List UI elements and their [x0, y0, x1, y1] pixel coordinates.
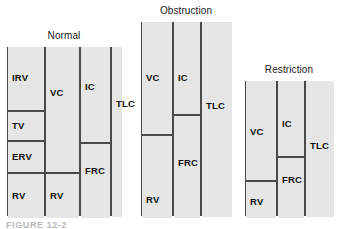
- segment-vc: VC: [246, 81, 276, 181]
- segment-label-rv-col2: RV: [46, 191, 63, 201]
- segment-rv: RV: [142, 135, 172, 218]
- segment-frc: FRC: [81, 143, 110, 218]
- normal-col-tlc: TLC: [111, 48, 122, 215]
- panel-normal-title: Normal: [7, 30, 121, 42]
- segment-rv-col1: RV: [8, 173, 44, 218]
- segment-label-tv: TV: [8, 121, 25, 131]
- obstruction-col-vc: VC RV: [142, 23, 173, 215]
- segment-label-tlc: TLC: [202, 101, 225, 111]
- panel-obstruction-title: Obstruction: [141, 5, 231, 17]
- panel-restriction-box: VC RV IC FRC TLC: [245, 81, 333, 216]
- panel-normal-box: IRV TV ERV RV VC RV: [7, 47, 121, 216]
- segment-label-frc: FRC: [81, 166, 105, 176]
- segment-label-vc: VC: [246, 127, 264, 137]
- segment-label-erv: ERV: [8, 152, 32, 162]
- segment-label-vc: VC: [142, 73, 160, 83]
- segment-label-frc: FRC: [278, 175, 302, 185]
- segment-label-irv: IRV: [8, 73, 28, 83]
- panel-obstruction: Obstruction VC RV IC FRC: [141, 5, 231, 216]
- segment-ic: IC: [174, 22, 200, 115]
- segment-label-ic: IC: [81, 82, 95, 92]
- segment-tv: TV: [8, 111, 44, 141]
- segment-ic: IC: [81, 47, 110, 143]
- obstruction-col-ic: IC FRC: [173, 23, 201, 215]
- segment-label-tlc: TLC: [306, 141, 329, 151]
- segment-tlc: TLC: [306, 81, 334, 217]
- segment-label-rv-col1: RV: [8, 191, 25, 201]
- segment-label-rv: RV: [246, 197, 263, 207]
- normal-col-subdivisions: IRV TV ERV RV: [8, 48, 45, 215]
- restriction-col-tlc: TLC: [305, 82, 334, 215]
- segment-frc: FRC: [174, 115, 200, 218]
- segment-ic: IC: [278, 81, 304, 157]
- segment-erv: ERV: [8, 141, 44, 173]
- segment-tlc: TLC: [202, 22, 232, 217]
- segment-label-ic: IC: [174, 73, 188, 83]
- segment-vc: VC: [46, 47, 79, 173]
- segment-label-rv: RV: [142, 195, 159, 205]
- segment-label-tlc: TLC: [112, 99, 135, 109]
- segment-label-vc: VC: [46, 88, 64, 98]
- normal-col-ic: IC FRC: [80, 48, 111, 215]
- panel-obstruction-box: VC RV IC FRC TLC: [141, 22, 231, 216]
- normal-col-vc: VC RV: [45, 48, 80, 215]
- segment-label-frc: FRC: [174, 158, 198, 168]
- segment-frc: FRC: [278, 157, 304, 218]
- segment-rv-col2: RV: [46, 173, 79, 218]
- segment-irv: IRV: [8, 47, 44, 111]
- panel-restriction: Restriction VC RV IC FRC: [245, 64, 333, 216]
- segment-label-ic: IC: [278, 119, 292, 129]
- panel-normal: Normal IRV TV ERV RV VC: [7, 30, 121, 216]
- restriction-col-ic: IC FRC: [277, 82, 305, 215]
- panel-restriction-title: Restriction: [245, 64, 333, 76]
- segment-rv: RV: [246, 181, 276, 218]
- lung-volume-figure: Normal IRV TV ERV RV VC: [0, 0, 347, 229]
- segment-tlc: TLC: [112, 47, 122, 217]
- restriction-col-vc: VC RV: [246, 82, 277, 215]
- obstruction-col-tlc: TLC: [201, 23, 232, 215]
- segment-vc: VC: [142, 22, 172, 135]
- figure-caption: FIGURE 12-2: [6, 221, 67, 229]
